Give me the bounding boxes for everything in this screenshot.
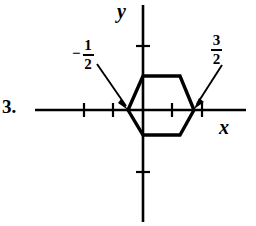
x-axis-label: x <box>219 117 229 137</box>
minus-sign: − <box>72 46 81 61</box>
hexagon-shape <box>128 76 194 135</box>
math-figure: 3. y x − 1 2 3 2 <box>0 0 256 226</box>
label-minus-one-half: − 1 2 <box>72 38 94 72</box>
fraction-numerator: 1 <box>83 38 93 54</box>
label-three-halves: 3 2 <box>211 33 222 67</box>
fraction-stack: 3 2 <box>211 33 222 67</box>
right-annotation-arrow <box>194 65 222 109</box>
problem-number: 3. <box>2 97 16 116</box>
fraction-stack: 1 2 <box>83 38 94 72</box>
fraction-denominator: 2 <box>83 56 93 72</box>
fraction-denominator: 2 <box>212 51 222 67</box>
y-axis-label: y <box>117 1 126 21</box>
fraction-numerator: 3 <box>212 33 222 49</box>
